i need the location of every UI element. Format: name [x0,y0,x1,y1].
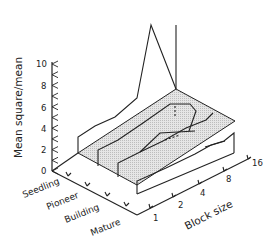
y-tick-mark [52,61,58,67]
x-tick-label: 4 [200,188,205,198]
y-tick-label: 4 [41,124,46,134]
y-tick-mark [52,157,58,163]
y-tick-mark [52,93,58,99]
y-axis: 10 8 6 4 2 0 Mean square/mean [12,57,58,176]
category-label-seedling: Seedling [21,176,61,200]
x-tick-label: 1 [153,213,158,223]
y-tick-mark [52,125,58,131]
y-tick-label: 0 [41,166,46,176]
x-axis-label: Block size [182,197,234,231]
category-label-mature: Mature [89,217,122,238]
x-tick-label: 2 [178,200,183,210]
y-tick-mark [52,115,58,121]
category-label-pioneer: Pioneer [45,190,80,212]
y-tick-mark [52,104,58,110]
y-tick-mark [52,136,58,142]
3d-fence-chart: 10 8 6 4 2 0 Mean square/mean [0,0,273,241]
y-tick-mark [52,82,58,88]
y-tick-mark [52,72,58,78]
category-label-building: Building [63,202,101,225]
y-tick-label: 8 [41,81,46,91]
x-tick-label: 16 [252,158,263,168]
x-tick-label: 8 [226,174,231,184]
y-tick-label: 10 [36,59,47,69]
y-tick-label: 2 [41,145,46,155]
y-axis-label: Mean square/mean [12,57,24,158]
y-tick-mark [52,147,58,153]
y-tick-label: 6 [41,103,46,113]
